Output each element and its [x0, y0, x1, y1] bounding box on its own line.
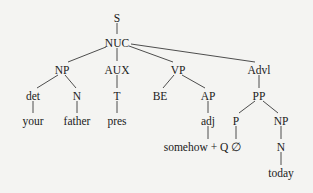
node-be: BE: [153, 90, 168, 102]
leaf-your: your: [22, 115, 43, 128]
leaf-father: father: [64, 115, 91, 127]
tree-nodes: S NUC NP AUX VP Advl det N T BE AP PP yo…: [22, 12, 294, 180]
node-adj: adj: [201, 115, 215, 128]
node-p: P: [233, 115, 239, 127]
leaf-empty-set: ∅: [231, 141, 241, 153]
edge-vp-ap: [182, 75, 205, 88]
edge-np-det: [37, 75, 58, 88]
node-vp: VP: [171, 64, 186, 76]
node-np: NP: [55, 64, 70, 76]
syntax-tree-diagram: S NUC NP AUX VP Advl det N T BE AP PP yo…: [0, 0, 313, 193]
node-advl: Advl: [248, 64, 271, 76]
edge-pp-p: [239, 101, 255, 113]
leaf-today: today: [268, 167, 294, 180]
leaf-pres: pres: [107, 115, 127, 128]
node-det: det: [26, 90, 41, 102]
node-aux: AUX: [105, 64, 131, 76]
node-n: N: [73, 90, 82, 102]
edge-vp-be: [163, 75, 174, 88]
edge-nuc-np: [68, 47, 106, 62]
leaf-somehow-q: somehow + Q: [164, 141, 229, 153]
node-t: T: [113, 90, 120, 102]
edge-nuc-vp: [129, 46, 173, 62]
node-pp: PP: [253, 90, 266, 102]
node-nuc: NUC: [105, 37, 130, 49]
node-ap: AP: [201, 90, 216, 102]
edge-pp-np: [263, 101, 278, 113]
edge-nuc-advl: [131, 44, 255, 62]
node-s: S: [114, 12, 120, 24]
node-n2: N: [277, 141, 286, 153]
edge-np-n: [65, 75, 76, 88]
node-np2: NP: [274, 115, 289, 127]
